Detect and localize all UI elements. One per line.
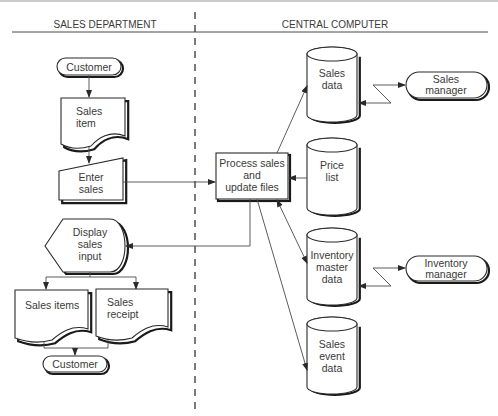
document-sales-item[interactable]: Sales item xyxy=(61,98,128,151)
label-line-1: Process sales xyxy=(219,157,284,169)
label-line-1: Display xyxy=(73,226,108,238)
flowchart-canvas: SALES DEPARTMENT CENTRAL COMPUTER Custom… xyxy=(0,0,498,416)
label-line-2: master xyxy=(316,261,349,273)
label: Customer xyxy=(52,358,98,370)
terminator-customer-top[interactable]: Customer xyxy=(57,58,123,77)
label-line-1: Sales xyxy=(76,105,102,117)
label-line-2: event xyxy=(319,350,345,362)
lane-headers: SALES DEPARTMENT CENTRAL COMPUTER xyxy=(12,19,488,32)
label-line-2: data xyxy=(322,79,343,91)
document-sales-items[interactable]: Sales items xyxy=(15,290,91,345)
label-line-3: update files xyxy=(225,181,279,193)
lane-title-sales-department: SALES DEPARTMENT xyxy=(54,19,157,30)
label: Customer xyxy=(66,61,112,73)
label-line-2: receipt xyxy=(107,308,139,320)
label-line-2: manager xyxy=(425,84,467,96)
label-line-1: Enter xyxy=(78,171,104,183)
label-line-2: list xyxy=(326,171,339,183)
display-sales-input[interactable]: Display sales input xyxy=(45,219,128,274)
document-sales-receipt[interactable]: Sales receipt xyxy=(96,289,171,343)
comm-link-inventory-manager xyxy=(359,268,405,286)
label-line-3: data xyxy=(322,273,343,285)
label-line-3: input xyxy=(79,250,102,262)
process-sales-and-update-files[interactable]: Process sales and update files xyxy=(216,153,290,201)
storage-inventory-master-data[interactable]: Inventory master data xyxy=(307,228,360,306)
terminator-customer-bottom[interactable]: Customer xyxy=(43,356,109,374)
storage-sales-event-data[interactable]: Sales event data xyxy=(307,317,360,395)
label-line-1: Sales items xyxy=(25,299,79,311)
terminator-inventory-manager[interactable]: Inventory manager xyxy=(406,256,489,283)
connector-merge-to-customer xyxy=(44,339,108,355)
manual-input-enter-sales[interactable]: Enter sales xyxy=(59,158,126,203)
label-line-3: data xyxy=(322,362,343,374)
label-line-2: and xyxy=(243,169,261,181)
lane-title-central-computer: CENTRAL COMPUTER xyxy=(282,19,388,30)
label-line-1: Sales xyxy=(107,296,133,308)
arrow-process-inventory-bidirectional xyxy=(277,200,307,263)
storage-price-list[interactable]: Price list xyxy=(307,138,360,216)
arrow-process-to-sales-event xyxy=(257,199,307,370)
label-line-2: sales xyxy=(79,183,104,195)
label-line-2: item xyxy=(76,117,96,129)
label-line-1: Price xyxy=(320,159,344,171)
label-line-1: Inventory xyxy=(310,249,354,261)
label-line-2: sales xyxy=(78,238,103,250)
terminator-sales-manager[interactable]: Sales manager xyxy=(406,72,489,100)
label-line-1: Sales xyxy=(319,338,345,350)
arrow-process-to-display xyxy=(126,199,250,246)
label-line-2: manager xyxy=(425,268,467,280)
comm-link-sales-manager xyxy=(359,85,405,103)
storage-sales-data[interactable]: Sales data xyxy=(307,47,360,123)
label-line-1: Sales xyxy=(319,67,345,79)
arrow-process-to-sales-data xyxy=(277,86,307,153)
